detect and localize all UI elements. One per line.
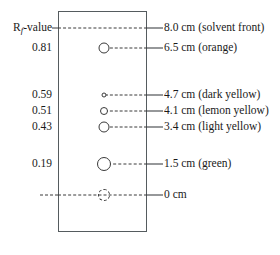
tlc-spot (97, 157, 111, 171)
tlc-spot (99, 43, 110, 54)
distance-label: 4.1 cm (lemon yellow) (164, 105, 269, 117)
tlc-spot (102, 93, 107, 98)
rf-value-label: 0.59 (0, 89, 52, 101)
tlc-spot (98, 189, 110, 201)
guide-dashed-line (58, 28, 147, 29)
distance-tick-mark (147, 48, 163, 49)
tlc-spot (100, 107, 108, 115)
guide-dashed-line-left (40, 195, 58, 196)
guide-dashed-line (105, 95, 147, 96)
guide-dashed-line (105, 111, 147, 112)
distance-label: 3.4 cm (light yellow) (164, 121, 261, 133)
rf-value-label: 0.81 (0, 42, 52, 54)
distance-label: 0 cm (164, 189, 187, 201)
distance-tick-mark (147, 164, 163, 165)
rf-value-label: 0.43 (0, 121, 52, 133)
rf-header-suffix: -value (23, 21, 52, 33)
guide-dashed-line (105, 127, 147, 128)
distance-label: 1.5 cm (green) (164, 158, 231, 170)
guide-dashed-line (105, 48, 147, 49)
rf-value-label: 0.51 (0, 105, 52, 117)
distance-tick-mark (147, 195, 163, 196)
rf-header-r: R (13, 21, 21, 33)
rf-value-label: 0.19 (0, 158, 52, 170)
distance-label: 6.5 cm (orange) (164, 42, 237, 54)
distance-label: 4.7 cm (dark yellow) (164, 89, 260, 101)
distance-tick-mark (147, 111, 163, 112)
distance-tick-mark (147, 95, 163, 96)
tlc-spot (99, 122, 110, 133)
distance-tick-mark (147, 28, 163, 29)
distance-label: 8.0 cm (solvent front) (164, 22, 264, 34)
guide-dashed-line-left (52, 28, 58, 29)
distance-tick-mark (147, 127, 163, 128)
rf-value-header: Rf-value (0, 22, 52, 35)
guide-dashed-line (108, 164, 147, 165)
tlc-plate-figure: Rf-value 8.0 cm (solvent front)0.816.5 c… (0, 0, 280, 255)
